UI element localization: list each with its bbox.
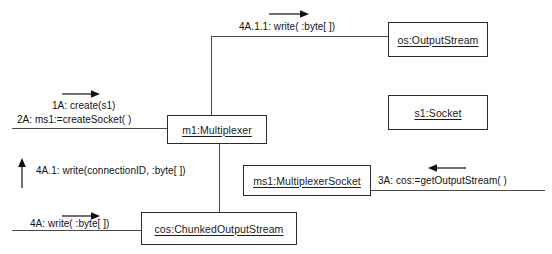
message-label-2a: 2A: ms1:=createSocket( )	[17, 114, 131, 125]
message-label-3a: 3A: cos:=getOutputStream( )	[378, 175, 507, 186]
object-box-ms1-multiplexersocket[interactable]: ms1:MultiplexerSocket	[243, 165, 371, 196]
message-arrow-left-3a	[428, 163, 466, 173]
object-label-cos-chunkedoutputstream: cos:ChunkedOutputStream	[155, 223, 284, 235]
link-actor-to-m1	[12, 128, 167, 129]
message-arrow-right-4a11	[269, 9, 309, 19]
object-box-m1-multiplexer[interactable]: m1:Multiplexer	[167, 115, 267, 144]
uml-communication-diagram: os:OutputStream s1:Socket m1:Multiplexer…	[0, 0, 552, 254]
object-box-s1-socket[interactable]: s1:Socket	[388, 95, 488, 130]
link-actor-to-cos	[12, 230, 141, 231]
object-box-cos-chunkedoutputstream[interactable]: cos:ChunkedOutputStream	[141, 212, 297, 245]
message-arrow-right-1a	[62, 89, 100, 99]
message-label-1a: 1A: create(s1)	[52, 100, 116, 111]
object-label-os-outputstream: os:OutputStream	[398, 34, 479, 46]
link-m1-to-os-horizontal	[211, 36, 388, 37]
message-label-4a: 4A: write( :byte[ ])	[30, 218, 109, 229]
object-label-ms1-multiplexersocket: ms1:MultiplexerSocket	[253, 175, 361, 187]
object-label-m1-multiplexer: m1:Multiplexer	[182, 124, 252, 136]
message-label-4a1: 4A.1: write(connectionID, :byte[ ])	[36, 165, 186, 176]
link-m1-to-os-vertical	[211, 36, 212, 115]
link-actor-to-ms1	[370, 190, 545, 191]
link-m1-to-cos	[219, 143, 220, 212]
object-label-s1-socket: s1:Socket	[414, 107, 461, 119]
object-box-os-outputstream[interactable]: os:OutputStream	[388, 22, 488, 57]
message-label-4a11: 4A.1.1: write( :byte[ ])	[239, 21, 335, 32]
message-arrow-up-4a1	[17, 158, 27, 188]
